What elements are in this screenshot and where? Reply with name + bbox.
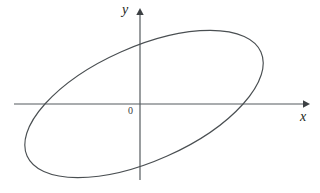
y-axis-label: y (122, 3, 128, 17)
ellipse-group (4, 0, 284, 193)
ellipse-diagram: y x 0 (0, 0, 320, 193)
diagram-canvas (0, 0, 320, 193)
x-axis-label: x (300, 110, 306, 124)
x-axis-arrow-icon (303, 100, 310, 108)
y-axis-arrow-icon (136, 8, 143, 15)
ellipse-curve (4, 0, 284, 193)
origin-label: 0 (128, 106, 133, 116)
